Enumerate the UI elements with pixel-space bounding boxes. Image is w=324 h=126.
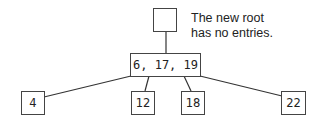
leaf-node: 4	[21, 91, 45, 115]
leaf-entries: 4	[29, 96, 36, 110]
leaf-node: 22	[281, 91, 306, 115]
annotation-line-1: The new root	[191, 11, 273, 26]
leaf-entries: 18	[186, 96, 201, 110]
root-node	[153, 8, 177, 32]
leaf-entries: 22	[286, 96, 301, 110]
annotation-line-2: has no entries.	[191, 26, 273, 41]
edge-to-leaf-12	[145, 76, 149, 91]
internal-entries: 6, 17, 19	[133, 58, 198, 72]
edge-to-leaf-18	[184, 76, 191, 91]
edge-to-leaf-4	[44, 76, 131, 97]
leaf-node: 18	[181, 91, 205, 115]
edge-to-leaf-22	[200, 76, 282, 96]
leaf-node: 12	[131, 91, 155, 115]
internal-node: 6, 17, 19	[130, 53, 201, 77]
root-annotation: The new root has no entries.	[191, 11, 273, 41]
leaf-entries: 12	[136, 96, 151, 110]
